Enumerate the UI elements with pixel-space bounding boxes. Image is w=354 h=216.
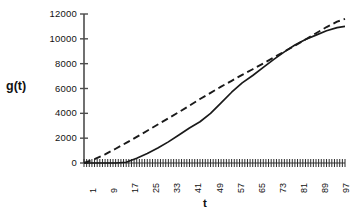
x-tick-label: 41 <box>193 183 203 193</box>
y-tick-label: 2000 <box>55 132 77 143</box>
x-tick-label: 81 <box>299 183 309 193</box>
y-tick-label: 4000 <box>55 107 77 118</box>
y-tick-label: 10000 <box>50 33 77 44</box>
axis-group <box>84 14 345 163</box>
series-line-solid <box>84 26 345 163</box>
y-axis-label: g(t) <box>6 79 26 93</box>
x-tick-label: 9 <box>109 188 119 193</box>
x-tick-label: 97 <box>341 183 351 193</box>
series-line-dashed <box>84 19 345 163</box>
x-tick-label: 49 <box>215 183 225 193</box>
x-tick-label: 33 <box>172 183 182 193</box>
x-tick-label: 17 <box>130 183 140 193</box>
x-tick-label: 73 <box>278 183 288 193</box>
x-tick-label: 65 <box>257 183 267 193</box>
x-tick-label: 57 <box>236 183 246 193</box>
series-group <box>84 19 345 163</box>
y-tick-label: 6000 <box>55 83 77 94</box>
chart-container: g(t) t 020004000600080001000012000 19172… <box>0 0 354 216</box>
x-tick-label: 89 <box>320 183 330 193</box>
x-tick-label: 1 <box>88 188 98 193</box>
x-axis-label: t <box>203 197 207 209</box>
x-tick-label: 25 <box>151 183 161 193</box>
y-tick-label: 12000 <box>50 8 77 19</box>
y-tick-label: 0 <box>72 157 77 168</box>
y-tick-label: 8000 <box>55 58 77 69</box>
